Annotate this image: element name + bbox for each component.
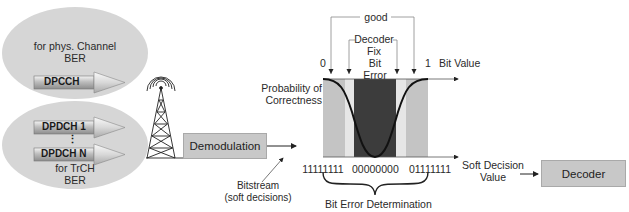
tick-11111111: 11111111	[300, 163, 346, 175]
bit-error-line1: Bit	[355, 57, 395, 69]
bit-error-line2: Error	[355, 69, 395, 81]
bitstream-line2: (soft decisions)	[218, 192, 298, 204]
dpdchn-label: DPDCH N	[41, 148, 87, 159]
bitstream-line1: Bitstream	[218, 180, 298, 192]
diagram-graphics	[0, 0, 629, 212]
top-axis-one: 1	[423, 57, 433, 69]
error-band	[354, 79, 396, 157]
tick-00000000: 00000000	[352, 163, 398, 175]
decoder-label: Decoder	[562, 168, 605, 180]
demodulation-label: Demodulation	[190, 140, 261, 152]
soft-decision-line2: Value	[460, 171, 526, 183]
demodulation-block: Demodulation	[183, 133, 267, 159]
bracket-good-label: good	[360, 11, 392, 23]
probability-label: Probability of Correctness	[258, 82, 322, 106]
dpcch-label: DPCCH	[44, 76, 80, 87]
radio-tower-icon	[146, 77, 183, 158]
bit-error-determination-label: Bit Error Determination	[325, 198, 425, 210]
bit-error-brace	[323, 172, 428, 195]
decoder-fix-line1: Decoder	[352, 33, 396, 45]
soft-decision-line1: Soft Decision	[460, 159, 526, 171]
bit-error-label: Bit Error	[355, 57, 395, 81]
probability-line1: Probability of	[258, 82, 322, 94]
fix-band-left	[345, 79, 354, 157]
bitstream-pointer	[262, 158, 283, 182]
decoder-fix-line2: Fix	[352, 45, 396, 57]
top-axis-zero: 0	[318, 57, 328, 69]
fix-band-right	[396, 79, 406, 157]
bit-value-label: Bit Value	[439, 57, 480, 69]
soft-decision-label: Soft Decision Value	[460, 159, 526, 183]
good-band-right	[406, 79, 428, 157]
good-band-left	[323, 79, 345, 157]
decoder-fix-label: Decoder Fix	[352, 33, 396, 57]
probability-line2: Correctness	[258, 94, 322, 106]
tick-01111111: 01111111	[407, 163, 453, 175]
dpdch-ellipsis: ⋮	[67, 133, 78, 146]
dpdch1-label: DPDCH 1	[42, 121, 86, 132]
decoder-block: Decoder	[541, 160, 626, 187]
bitstream-label: Bitstream (soft decisions)	[218, 180, 298, 204]
